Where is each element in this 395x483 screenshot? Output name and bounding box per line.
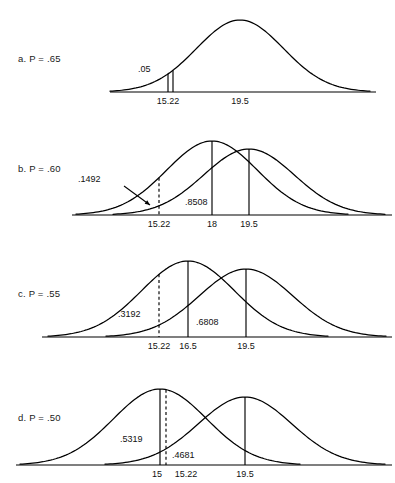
area-label-a-0: .05 <box>138 64 151 74</box>
tick-label-c-2: 19.5 <box>237 341 255 351</box>
area-label-b-0: .1492 <box>78 174 101 184</box>
distribution-figure: a. P = .6515.2219.5.05b. P = .6015.22181… <box>0 0 395 483</box>
panel-label-c: c. P = .55 <box>18 288 60 299</box>
area-label-d-1: .4681 <box>172 450 195 460</box>
area-label-b-1: .8508 <box>185 197 208 207</box>
area-label-d-0: .5319 <box>120 434 143 444</box>
tick-label-c-0: 15.22 <box>148 341 171 351</box>
panel-a: a. P = .6515.2219.5.05 <box>18 20 376 106</box>
tick-label-a-1: 19.5 <box>231 96 249 106</box>
tick-label-c-1: 16.5 <box>179 341 197 351</box>
curve-a-alternative <box>110 20 370 91</box>
area-label-c-0: .3192 <box>118 309 141 319</box>
tick-label-a-0: 15.22 <box>157 96 180 106</box>
panel-label-d: d. P = .50 <box>18 412 61 423</box>
panel-b: b. P = .6015.221819.5.1492.8508 <box>18 141 392 229</box>
tick-label-b-2: 19.5 <box>240 219 258 229</box>
annotation-arrowhead-b <box>145 200 150 205</box>
tick-label-d-0: 15 <box>152 469 162 479</box>
tick-label-d-2: 19.5 <box>236 469 254 479</box>
panel-c: c. P = .5515.2216.519.5.3192.6808 <box>18 261 392 351</box>
area-label-c-1: .6808 <box>196 317 219 327</box>
panel-label-b: b. P = .60 <box>18 163 61 174</box>
panel-label-a: a. P = .65 <box>18 53 61 64</box>
tick-label-d-1: 15.22 <box>175 469 198 479</box>
tick-label-b-1: 18 <box>207 219 217 229</box>
panel-d: d. P = .501515.2219.5.5319.4681 <box>16 389 392 479</box>
tick-label-b-0: 15.22 <box>148 219 171 229</box>
